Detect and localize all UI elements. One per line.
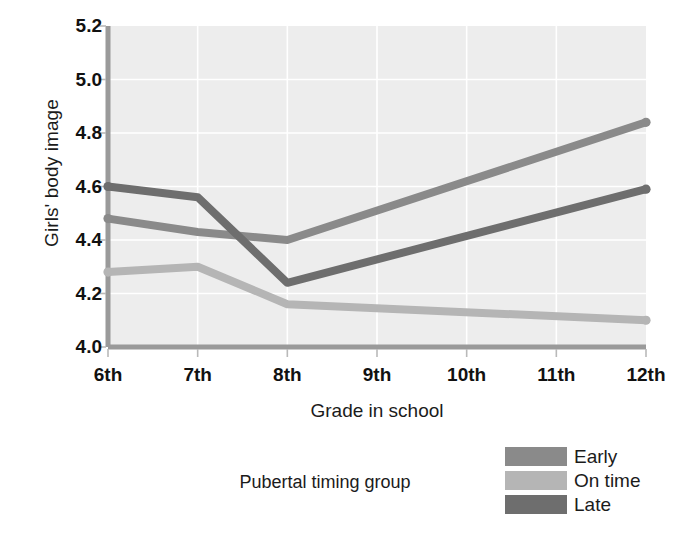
legend-item-label: On time	[574, 471, 641, 490]
x-tick-label: 11th	[521, 365, 591, 384]
legend-item[interactable]: On time	[505, 468, 675, 492]
legend-swatch-icon	[505, 447, 567, 466]
x-tick-label: 12th	[611, 365, 676, 384]
line-chart-figure: Girls' body image 5.25.04.84.64.44.24.0 …	[0, 0, 676, 540]
x-tick-label: 6th	[73, 365, 143, 384]
legend-swatch-icon	[505, 471, 567, 490]
legend-title: Pubertal timing group	[200, 472, 450, 493]
legend: EarlyOn timeLate	[505, 444, 675, 516]
x-axis-title: Grade in school	[108, 400, 646, 422]
legend-swatch-icon	[505, 495, 567, 514]
legend-item-label: Late	[574, 495, 611, 514]
legend-item[interactable]: Early	[505, 444, 675, 468]
x-tick-label: 8th	[252, 365, 322, 384]
legend-item[interactable]: Late	[505, 492, 675, 516]
x-tick-label: 10th	[432, 365, 502, 384]
x-tick-label: 9th	[342, 365, 412, 384]
x-tick-label: 7th	[163, 365, 233, 384]
legend-item-label: Early	[574, 447, 617, 466]
